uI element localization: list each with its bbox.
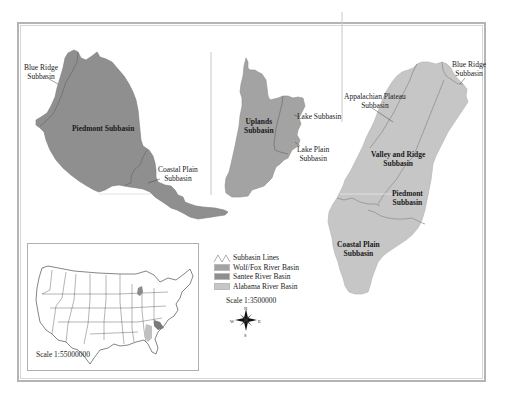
- label-alabama-valley-ridge: Valley and Ridge Subbasin: [371, 150, 425, 168]
- label-alabama-appalachian: Appalachian Plateau Subbasin: [344, 92, 406, 110]
- label-alabama-piedmont: Piedmont Subbasin: [392, 189, 423, 207]
- label-alabama-coastal-plain: Coastal Plain Subbasin: [337, 240, 380, 258]
- label-line: Lake Plain: [297, 145, 329, 154]
- label-line: Blue Ridge: [452, 60, 486, 69]
- label-line: Subbasin: [337, 249, 380, 258]
- label-line: Blue Ridge: [24, 63, 58, 72]
- label-santee-piedmont: Piedmont Subbasin: [72, 124, 134, 133]
- label-line: Subbasin: [452, 69, 486, 78]
- label-line: Subbasin: [24, 72, 58, 81]
- label-line: Appalachian Plateau: [344, 92, 406, 101]
- santee-river-basin: [36, 50, 228, 219]
- legend-swatch-santee: [214, 273, 230, 280]
- label-wolffox-lake: Lake Subbasin: [297, 112, 341, 121]
- legend-swatch-wolf-fox: [214, 264, 230, 271]
- label-line: Subbasin: [371, 159, 425, 168]
- label-line: Piedmont: [392, 189, 423, 198]
- legend-label: Alabama River Basin: [233, 282, 298, 292]
- legend-item-alabama: Alabama River Basin: [214, 282, 299, 292]
- label-line: Lake Subbasin: [297, 112, 341, 121]
- legend-item-wolf-fox: Wolf/Fox River Basin: [214, 263, 299, 273]
- label-line: Uplands: [244, 117, 274, 126]
- label-line: Coastal Plain: [337, 240, 380, 249]
- label-santee-blue-ridge: Blue Ridge Subbasin: [24, 63, 58, 81]
- label-line: Coastal Plain: [158, 165, 198, 174]
- label-alabama-blue-ridge: Blue Ridge Subbasin: [452, 60, 486, 78]
- label-wolffox-uplands: Uplands Subbasin: [244, 117, 274, 135]
- legend: Subbasin Lines Wolf/Fox River Basin Sant…: [214, 253, 299, 291]
- legend-item-subbasin-lines: Subbasin Lines: [214, 253, 299, 263]
- compass-w: W: [230, 317, 234, 326]
- label-wolffox-lake-plain: Lake Plain Subbasin: [297, 145, 329, 163]
- label-santee-coastal-plain: Coastal Plain Subbasin: [158, 165, 198, 183]
- label-line: Piedmont Subbasin: [72, 124, 134, 133]
- legend-swatch-alabama: [214, 283, 230, 290]
- compass-e: E: [258, 317, 261, 326]
- legend-label: Subbasin Lines: [233, 253, 279, 263]
- us-inset-map: Scale 1:55000000: [27, 243, 199, 371]
- legend-label: Santee River Basin: [233, 272, 291, 282]
- inset-scale-text: Scale 1:55000000: [36, 350, 90, 359]
- compass-n: N: [244, 304, 247, 313]
- main-scale-text: Scale 1:3500000: [226, 296, 276, 305]
- legend-item-santee: Santee River Basin: [214, 272, 299, 282]
- label-line: Subbasin: [158, 174, 198, 183]
- legend-label: Wolf/Fox River Basin: [233, 263, 299, 273]
- label-line: Valley and Ridge: [371, 150, 425, 159]
- label-line: Subbasin: [392, 198, 423, 207]
- label-line: Subbasin: [297, 154, 329, 163]
- compass-s: S: [244, 331, 247, 340]
- label-line: Subbasin: [244, 126, 274, 135]
- label-line: Subbasin: [344, 101, 406, 110]
